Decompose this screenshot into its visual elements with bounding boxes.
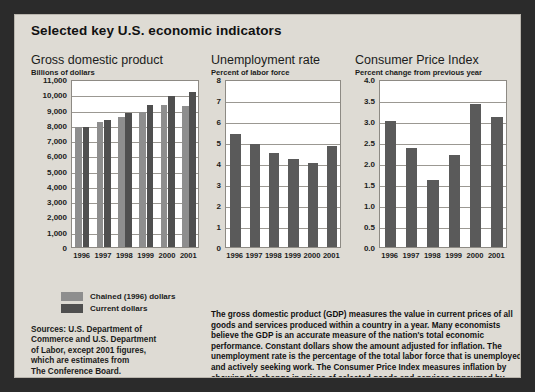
plot-unemployment [225, 80, 341, 248]
x-tick-label: 2001 [488, 251, 505, 260]
plot-gdp [71, 80, 199, 248]
plot-cpi [379, 80, 507, 248]
x-tick-label: 1996 [73, 251, 90, 260]
x-tick-label: 2001 [180, 251, 197, 260]
bars-gdp [72, 81, 198, 247]
legend-swatch-icon [61, 304, 83, 313]
y-tick-label: 4 [217, 160, 221, 169]
x-tick-label: 2001 [323, 251, 340, 260]
bar-unemployment-1997-0 [250, 144, 260, 247]
y-tick-label: 6,000 [47, 152, 67, 161]
x-tick-label: 1999 [284, 251, 301, 260]
y-tick-label: 0.5 [364, 223, 375, 232]
explanatory-text: The gross domestic product (GDP) measure… [211, 310, 521, 378]
infographic-root: Selected key U.S. economic indicators Gr… [0, 0, 535, 392]
y-tick-label: 3,000 [47, 198, 67, 207]
bar-unemployment-2000-0 [308, 163, 318, 247]
x-tick-label: 1999 [137, 251, 154, 260]
sources-line: which are estimates from [31, 356, 201, 366]
y-tick-label: 0.0 [364, 244, 375, 253]
chart-title-gdp: Gross domestic product [31, 53, 201, 67]
y-tick-label: 1,000 [47, 228, 67, 237]
legend-swatch-icon [61, 292, 83, 301]
chart-subtitle-cpi: Percent change from previous year [355, 68, 510, 77]
y-tick-label: 0 [217, 244, 221, 253]
bar-cpi-1999-0 [449, 155, 460, 247]
y-tick-label: 8,000 [47, 121, 67, 130]
legend-label: Current dollars [90, 304, 147, 313]
sources-line: Sources: U.S. Department of [31, 325, 201, 335]
y-tick-label: 5 [217, 139, 221, 148]
chart-title-unemployment: Unemployment rate [211, 53, 344, 67]
y-tick-label: 3 [217, 181, 221, 190]
legend-item-current: Current dollars [61, 304, 175, 313]
bar-gdp-2001-1 [189, 92, 196, 247]
y-tick-label: 8 [217, 76, 221, 85]
chart-subtitle-unemployment: Percent of labor force [211, 68, 344, 77]
y-tick-label: 2 [217, 202, 221, 211]
y-tick-label: 1.0 [364, 202, 375, 211]
bar-unemployment-1996-0 [230, 134, 240, 247]
y-tick-label: 3.0 [364, 118, 375, 127]
bar-unemployment-2001-0 [327, 146, 337, 247]
bar-gdp-1998-0 [118, 117, 125, 247]
page-title: Selected key U.S. economic indicators [31, 23, 282, 38]
y-tick-label: 9,000 [47, 106, 67, 115]
bar-gdp-1996-0 [75, 127, 82, 247]
bars-cpi [380, 81, 506, 247]
x-tick-label: 2000 [467, 251, 484, 260]
y-tick-label: 1.5 [364, 181, 375, 190]
y-tick-label: 11,000 [43, 76, 67, 85]
bar-cpi-1997-0 [406, 148, 417, 247]
bar-cpi-1998-0 [427, 180, 438, 247]
y-axis-gdp: 01,0002,0003,0004,0005,0006,0007,0008,00… [31, 80, 67, 248]
bar-unemployment-1999-0 [288, 159, 298, 247]
x-tick-label: 1998 [265, 251, 282, 260]
x-tick-label: 2000 [159, 251, 176, 260]
plot-area-cpi: 0.00.51.01.52.02.53.03.54.0 199619971998… [355, 80, 510, 270]
x-tick-label: 1997 [403, 251, 420, 260]
chart-panel-unemployment: Unemployment rate Percent of labor force… [211, 53, 344, 270]
bar-gdp-1998-1 [125, 113, 132, 247]
y-tick-label: 6 [217, 118, 221, 127]
bar-gdp-2001-0 [182, 106, 189, 247]
bar-gdp-1999-1 [147, 105, 154, 247]
bars-unemployment [226, 81, 340, 247]
x-tick-label: 1997 [246, 251, 263, 260]
chart-title-cpi: Consumer Price Index [355, 53, 510, 67]
y-axis-unemployment: 012345678 [211, 80, 221, 248]
y-tick-label: 3.5 [364, 97, 375, 106]
bar-cpi-2001-0 [491, 117, 502, 247]
x-tick-label: 1997 [95, 251, 112, 260]
y-tick-label: 2,000 [47, 213, 67, 222]
sources-line: Commerce and U.S. Department [31, 335, 201, 345]
x-tick-label: 1998 [116, 251, 133, 260]
y-tick-label: 7 [217, 97, 221, 106]
plot-area-gdp: 01,0002,0003,0004,0005,0006,0007,0008,00… [31, 80, 201, 270]
x-tick-label: 1996 [381, 251, 398, 260]
chart-panel-gdp: Gross domestic product Billions of dolla… [31, 53, 201, 270]
sources-line: The Conference Board. [31, 367, 201, 377]
y-tick-label: 4.0 [364, 76, 375, 85]
x-tick-label: 1996 [226, 251, 243, 260]
x-tick-label: 2000 [304, 251, 321, 260]
bar-gdp-2000-1 [168, 96, 175, 247]
x-tick-label: 1999 [445, 251, 462, 260]
legend-item-chained: Chained (1996) dollars [61, 292, 175, 301]
y-tick-label: 4,000 [47, 182, 67, 191]
bar-gdp-1997-0 [97, 122, 104, 247]
chart-legend: Chained (1996) dollarsCurrent dollars [61, 292, 175, 316]
bar-unemployment-1998-0 [269, 153, 279, 248]
infographic-frame: Selected key U.S. economic indicators Gr… [14, 14, 521, 378]
y-axis-cpi: 0.00.51.01.52.02.53.03.54.0 [355, 80, 375, 248]
legend-label: Chained (1996) dollars [90, 292, 175, 301]
plot-area-unemployment: 012345678 199619971998199920002001 [211, 80, 344, 270]
bar-gdp-2000-0 [161, 105, 168, 247]
bar-cpi-2000-0 [470, 104, 481, 247]
y-tick-label: 0 [63, 244, 67, 253]
y-tick-label: 2.5 [364, 139, 375, 148]
y-tick-label: 1 [217, 223, 221, 232]
bar-gdp-1996-1 [83, 127, 90, 247]
y-tick-label: 2.0 [364, 160, 375, 169]
sources-note: Sources: U.S. Department ofCommerce and … [31, 325, 201, 377]
